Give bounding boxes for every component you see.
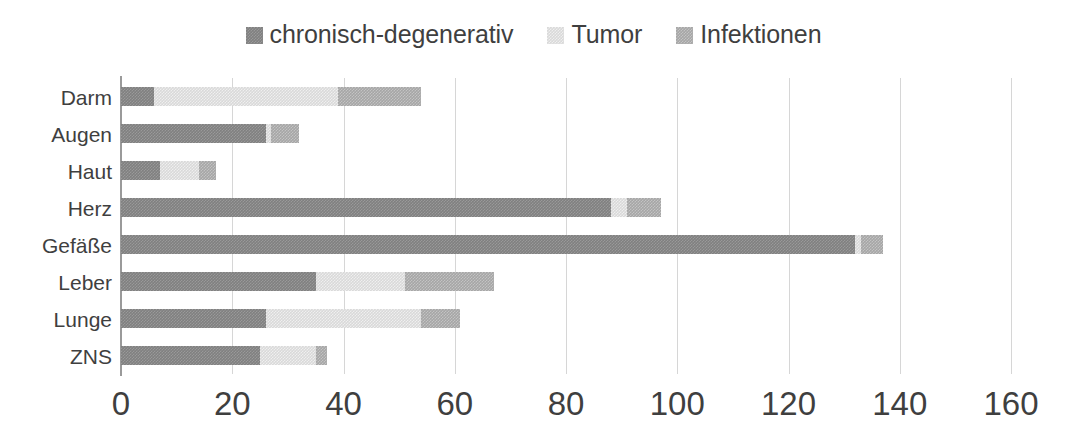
y-axis-label-zns: ZNS: [0, 346, 112, 367]
bar-row[interactable]: [121, 161, 216, 180]
gridline-160: [1011, 78, 1012, 374]
x-axis-tick-120: 120: [729, 385, 849, 423]
chart-legend: chronisch-degenerativ Tumor Infektionen: [0, 14, 1067, 54]
gridline-40: [344, 78, 345, 374]
y-axis-label-leber: Leber: [0, 272, 112, 293]
x-axis-tick-20: 20: [172, 385, 292, 423]
bar-segment-infektionen[interactable]: [316, 346, 327, 365]
bar-segment-tumor[interactable]: [316, 272, 405, 291]
bar-segment-infektionen[interactable]: [627, 198, 660, 217]
gridline-140: [900, 78, 901, 374]
bar-segment-chronisch-degenerativ[interactable]: [121, 124, 266, 143]
bar-segment-infektionen[interactable]: [199, 161, 216, 180]
y-axis-label-darm: Darm: [0, 87, 112, 108]
gridline-20: [232, 78, 233, 374]
legend-swatch-icon-tumor: [547, 27, 564, 44]
gridline-100: [677, 78, 678, 374]
bar-segment-tumor[interactable]: [266, 309, 422, 328]
y-axis-label-haut: Haut: [0, 161, 112, 182]
bar-row[interactable]: [121, 87, 421, 106]
bar-segment-chronisch-degenerativ[interactable]: [121, 346, 260, 365]
bar-segment-tumor[interactable]: [154, 87, 338, 106]
bar-segment-chronisch-degenerativ[interactable]: [121, 161, 160, 180]
y-axis-label-herz: Herz: [0, 198, 112, 219]
bar-segment-tumor[interactable]: [611, 198, 628, 217]
plot-area: [121, 78, 1011, 374]
bar-segment-infektionen[interactable]: [421, 309, 460, 328]
bar-segment-infektionen[interactable]: [405, 272, 494, 291]
stacked-bar-chart: chronisch-degenerativ Tumor Infektionen …: [0, 0, 1067, 441]
legend-item-chronisch-degenerativ[interactable]: chronisch-degenerativ: [246, 22, 514, 47]
y-axis-label-lunge: Lunge: [0, 309, 112, 330]
bar-segment-chronisch-degenerativ[interactable]: [121, 198, 611, 217]
legend-swatch-icon-infektionen: [676, 27, 693, 44]
bar-segment-infektionen[interactable]: [861, 235, 883, 254]
bar-segment-chronisch-degenerativ[interactable]: [121, 272, 316, 291]
x-axis-tick-100: 100: [617, 385, 737, 423]
legend-label-tumor: Tumor: [571, 22, 642, 47]
x-axis-tick-80: 80: [506, 385, 626, 423]
bar-segment-tumor[interactable]: [160, 161, 199, 180]
bar-row[interactable]: [121, 309, 460, 328]
bar-segment-chronisch-degenerativ[interactable]: [121, 309, 266, 328]
bar-segment-chronisch-degenerativ[interactable]: [121, 235, 855, 254]
x-axis-tick-0: 0: [61, 385, 181, 423]
legend-label-infektionen: Infektionen: [700, 22, 821, 47]
y-axis-category-labels: DarmAugenHautHerzGefäßeLeberLungeZNS: [0, 78, 112, 374]
y-axis-label-augen: Augen: [0, 124, 112, 145]
x-axis-tick-40: 40: [284, 385, 404, 423]
bar-segment-chronisch-degenerativ[interactable]: [121, 87, 154, 106]
bar-segment-tumor[interactable]: [260, 346, 316, 365]
bar-row[interactable]: [121, 124, 299, 143]
bar-row[interactable]: [121, 235, 883, 254]
bar-row[interactable]: [121, 272, 494, 291]
gridline-80: [566, 78, 567, 374]
gridline-120: [789, 78, 790, 374]
x-axis-tick-140: 140: [840, 385, 960, 423]
legend-item-infektionen[interactable]: Infektionen: [676, 22, 821, 47]
gridline-60: [455, 78, 456, 374]
bar-row[interactable]: [121, 198, 661, 217]
x-axis-tick-60: 60: [395, 385, 515, 423]
y-axis-label-gefäße: Gefäße: [0, 235, 112, 256]
legend-item-tumor[interactable]: Tumor: [547, 22, 642, 47]
legend-swatch-icon-chronisch-degenerativ: [246, 27, 263, 44]
legend-label-chronisch-degenerativ: chronisch-degenerativ: [270, 22, 514, 47]
bar-segment-infektionen[interactable]: [271, 124, 299, 143]
x-axis-tick-labels: 020406080100120140160: [0, 385, 1067, 431]
bar-segment-infektionen[interactable]: [338, 87, 421, 106]
x-axis-tick-160: 160: [951, 385, 1067, 423]
bar-row[interactable]: [121, 346, 327, 365]
